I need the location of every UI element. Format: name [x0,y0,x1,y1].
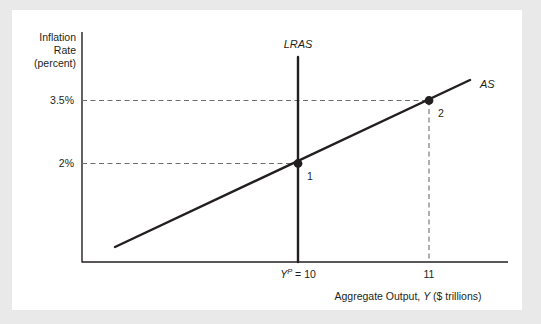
x-tick-label-11: 11 [424,268,435,280]
y-tick-label-3point5: 3.5% [50,94,74,106]
x-axis-title-suffix: ($ trillions) [430,290,481,302]
y-axis-title-line-3: (percent) [34,57,76,69]
y-axis-title-line-2: Rate [54,44,76,56]
x-axis-tick-labels: YP = 10 11 [280,267,434,280]
x-tick-separator: = [292,268,304,280]
x-tick-value-10: 10 [304,268,316,280]
x-tick-label-potential-output: YP = 10 [280,267,316,280]
as-curve-label: AS [479,78,495,90]
screenshot-root: Inflation Rate (percent) 3.5% 2% LRAS [0,0,541,324]
y-axis-title: Inflation Rate (percent) [34,31,76,69]
y-axis-tick-labels: 3.5% 2% [50,94,74,169]
point-1-dot [294,159,303,168]
aggregate-supply-chart: Inflation Rate (percent) 3.5% 2% LRAS [12,10,522,310]
lras-curve-label: LRAS [284,38,313,50]
y-tick-label-2: 2% [59,157,74,169]
lras-curve-group: LRAS [284,38,313,262]
equilibrium-points: 1 2 [294,96,444,182]
point-2-dot [425,96,434,105]
point-1-label: 1 [307,170,313,182]
figure-card: Inflation Rate (percent) 3.5% 2% LRAS [12,10,522,310]
x-axis-title-prefix: Aggregate Output, [334,290,423,302]
y-axis-title-line-1: Inflation [39,31,76,43]
x-axis-title: Aggregate Output, Y ($ trillions) [334,290,481,302]
as-curve-group: AS [115,78,495,247]
chart-axes [82,32,508,263]
point-2-label: 2 [438,107,444,119]
